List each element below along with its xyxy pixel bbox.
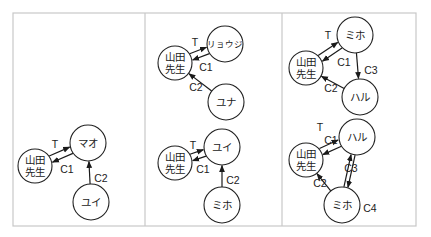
edge-label: T — [325, 29, 332, 41]
edge-label: C2 — [226, 174, 240, 186]
edge-ryoji-to-yamada — [193, 54, 210, 60]
node-miho: ミホ — [204, 187, 240, 223]
edge-yui-to-mao — [89, 161, 90, 184]
node-label: 先生 — [296, 68, 316, 80]
edge-label: C3 — [344, 162, 358, 174]
edge-label: T — [190, 139, 197, 151]
edge-label: T — [317, 121, 324, 133]
node-label: ハル — [350, 91, 370, 103]
panel2-bottom-graph: TC1C2山田先生ユイミホ — [158, 129, 240, 223]
node-label: 山田 — [165, 151, 185, 163]
node-yamada: 山田先生 — [18, 149, 52, 183]
edge-haru-to-yamada — [323, 146, 342, 154]
node-label: ミホ — [212, 199, 232, 211]
edge-label: C2 — [94, 172, 108, 184]
node-label: 先生 — [25, 166, 45, 178]
node-label: 山田 — [25, 154, 45, 166]
edge-yui-to-yamada — [193, 156, 206, 161]
node-label: 先生 — [165, 163, 185, 175]
node-yuna: ユナ — [208, 84, 244, 120]
node-label: ミホ — [345, 29, 365, 41]
edge-miho-to-haru — [356, 53, 358, 79]
node-label: ミホ — [332, 199, 352, 211]
node-miho: ミホ — [337, 17, 373, 53]
edge-yamada-to-ryoji — [190, 47, 207, 53]
panel3-bottom-graph: TC1C3C4C2山田先生ハルミホ — [289, 119, 377, 223]
node-mao: マオ — [70, 125, 106, 161]
node-label: ハル — [347, 131, 367, 143]
node-yamada: 山田先生 — [158, 46, 192, 80]
node-yamada: 山田先生 — [158, 146, 192, 180]
node-label: 山田 — [296, 56, 316, 68]
edge-label: C2 — [313, 177, 327, 189]
graph-layer: TC1C2山田先生マオユイTC1C2山田先生リョウジユナTC1C2山田先生ユイミ… — [18, 17, 378, 223]
edge-label: C2 — [324, 82, 338, 94]
panel1-graph: TC1C2山田先生マオユイ — [18, 125, 109, 220]
node-label: リョウジ — [207, 39, 243, 49]
edge-label: C1 — [199, 61, 213, 73]
panel3-top-graph: TC1C3C2山田先生ミホハル — [289, 17, 378, 115]
edge-label: C1 — [196, 163, 210, 175]
node-yui: ユイ — [204, 129, 240, 165]
edge-label: C3 — [364, 64, 378, 76]
edge-label: C4 — [363, 202, 377, 214]
edge-yamada-to-miho — [318, 42, 338, 55]
node-label: 先生 — [165, 63, 185, 75]
node-label: 山田 — [165, 51, 185, 63]
edge-label: C1 — [337, 56, 351, 68]
edge-mao-to-yamada — [52, 153, 72, 162]
node-label: 先生 — [296, 160, 316, 172]
panel2-top-graph: TC1C2山田先生リョウジユナ — [158, 26, 244, 120]
sociogram-figure: TC1C2山田先生マオユイTC1C2山田先生リョウジユナTC1C2山田先生ユイミ… — [0, 0, 431, 237]
node-yui: ユイ — [73, 184, 109, 220]
edge-label: C2 — [189, 81, 203, 93]
node-label: ユイ — [212, 141, 232, 153]
node-label: マオ — [78, 137, 98, 149]
node-miho: ミホ — [324, 187, 360, 223]
node-yamada: 山田先生 — [289, 143, 323, 177]
edge-label: T — [52, 138, 59, 150]
node-haru: ハル — [339, 119, 375, 155]
edge-label: T — [192, 36, 199, 48]
node-label: 山田 — [296, 148, 316, 160]
node-haru: ハル — [342, 79, 378, 115]
edge-label: C1 — [324, 134, 338, 146]
node-ryoji: リョウジ — [207, 26, 243, 62]
node-label: ユナ — [216, 96, 236, 108]
node-label: ユイ — [81, 196, 101, 208]
node-yamada: 山田先生 — [289, 51, 323, 85]
edge-label: C1 — [60, 163, 74, 175]
